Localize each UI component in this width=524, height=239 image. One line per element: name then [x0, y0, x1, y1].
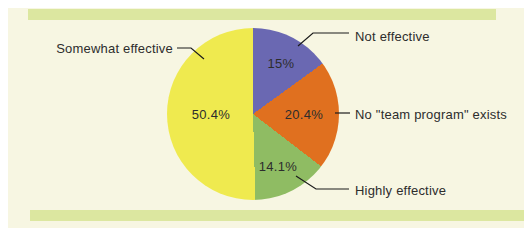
- slice-percent-no-team-program: 20.4%: [285, 107, 323, 122]
- slice-label-not-effective: Not effective: [355, 29, 430, 44]
- slice-label-highly-effective: Highly effective: [355, 183, 446, 198]
- bottom-stripe: [30, 210, 524, 221]
- slice-label-no-team-program: No "team program" exists: [355, 107, 507, 122]
- slice-percent-not-effective: 15%: [268, 56, 295, 71]
- slice-label-somewhat-effective: Somewhat effective: [56, 41, 173, 56]
- slice-percent-somewhat-effective: 50.4%: [192, 107, 230, 122]
- top-stripe: [28, 9, 496, 20]
- slice-percent-highly-effective: 14.1%: [259, 159, 297, 174]
